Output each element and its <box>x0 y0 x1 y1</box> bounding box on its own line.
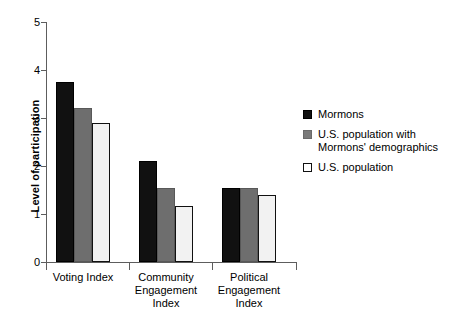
x-axis-tick-mark <box>296 263 297 270</box>
bar[interactable] <box>74 108 92 262</box>
legend-label: U.S. population <box>318 161 393 174</box>
bar[interactable] <box>139 161 157 262</box>
y-axis-tick-label: 0 <box>26 257 40 267</box>
x-axis-category-label: PoliticalEngagementIndex <box>199 271 299 310</box>
bar[interactable] <box>240 188 258 262</box>
x-axis-tick-mark <box>212 263 213 270</box>
y-axis-tick-mark <box>41 214 46 215</box>
y-axis-line <box>46 22 47 263</box>
bar-group <box>139 22 193 262</box>
bar-chart: Level of participation 012345 MormonsU.S… <box>0 0 451 321</box>
x-axis-category-label-line: Political <box>199 271 299 284</box>
y-axis-tick-label: 4 <box>26 65 40 75</box>
bar[interactable] <box>258 195 276 262</box>
y-axis-tick-mark <box>41 22 46 23</box>
y-axis-tick-label: 5 <box>26 17 40 27</box>
legend-swatch-icon <box>303 130 312 139</box>
x-axis-line <box>46 262 297 263</box>
legend-label: U.S. population with Mormons' demographi… <box>318 128 438 154</box>
legend-swatch-icon <box>303 110 312 119</box>
bar[interactable] <box>92 123 110 262</box>
legend-item[interactable]: U.S. population with Mormons' demographi… <box>303 128 451 154</box>
y-axis-tick-label: 2 <box>26 161 40 171</box>
plot-area <box>46 22 296 262</box>
x-axis-tick-mark <box>129 263 130 270</box>
bar-group <box>56 22 110 262</box>
legend-swatch-icon <box>303 163 312 172</box>
x-axis-category-label-line: Engagement <box>199 284 299 297</box>
bar[interactable] <box>157 188 175 262</box>
bar[interactable] <box>175 206 193 262</box>
legend-label: Mormons <box>318 108 364 121</box>
y-axis-tick-label: 3 <box>26 113 40 123</box>
y-axis-tick-mark <box>41 166 46 167</box>
bar[interactable] <box>222 188 240 262</box>
y-axis-tick-mark <box>41 70 46 71</box>
y-axis-tick-mark <box>41 118 46 119</box>
x-axis-tick-mark <box>46 263 47 270</box>
bar-group <box>222 22 276 262</box>
legend: MormonsU.S. population with Mormons' dem… <box>303 108 451 181</box>
legend-item[interactable]: Mormons <box>303 108 451 121</box>
bar[interactable] <box>56 82 74 262</box>
y-axis-tick-label: 1 <box>26 209 40 219</box>
x-axis-category-label-line: Index <box>199 297 299 310</box>
legend-item[interactable]: U.S. population <box>303 161 451 174</box>
